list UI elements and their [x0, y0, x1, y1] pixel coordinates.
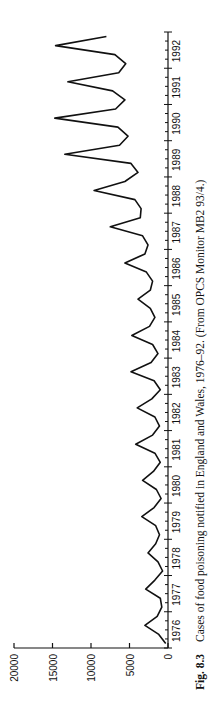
year-tick-label: 1986	[171, 257, 182, 280]
value-tick-label: 10000	[86, 654, 97, 682]
value-axis: 05000100001500020000	[9, 643, 174, 682]
year-tick-label: 1990	[171, 112, 182, 135]
year-tick-label: 1985	[171, 293, 182, 316]
value-tick-label: 20000	[9, 654, 20, 682]
svg-text:Fig. 8.3 Cases of food: Fig. 8.3 Cases of food poisoning notifie…	[194, 179, 207, 690]
year-tick-label: 1989	[171, 148, 182, 171]
series-line	[55, 37, 166, 644]
year-tick-label: 1979	[171, 511, 182, 534]
year-tick-label: 1977	[171, 583, 182, 606]
year-tick-label: 1976	[171, 619, 182, 642]
figure-caption: Fig. 8.3 Cases of food poisoning notifie…	[194, 179, 207, 690]
value-tick-label: 15000	[48, 654, 59, 682]
value-tick-label: 0	[163, 654, 174, 660]
value-tick-label: 5000	[125, 654, 136, 677]
year-tick-label: 1991	[171, 76, 182, 99]
year-tick-label: 1983	[171, 366, 182, 389]
year-tick-label: 1980	[171, 474, 182, 497]
year-tick-label: 1992	[171, 40, 182, 63]
year-tick-label: 1981	[171, 438, 182, 461]
figure-label: Fig. 8.3	[194, 654, 207, 690]
caption-text: Cases of food poisoning notified in Engl…	[194, 179, 207, 642]
figure: 05000100001500020000 1976197719781979198…	[0, 0, 213, 706]
year-tick-label: 1984	[171, 329, 182, 352]
year-tick-label: 1988	[171, 184, 182, 207]
year-tick-label: 1982	[171, 402, 182, 425]
year-tick-label: 1978	[171, 547, 182, 570]
year-axis: 1976197719781979198019811982198319841985…	[164, 32, 182, 648]
year-tick-label: 1987	[171, 221, 182, 244]
line-chart: 05000100001500020000 1976197719781979198…	[0, 0, 213, 706]
